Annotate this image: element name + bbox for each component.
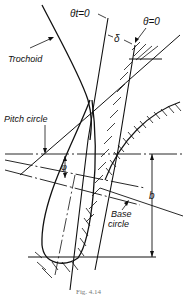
pressure-line-1 [5,160,145,188]
hatching-base [106,104,181,175]
phi-label: φ [61,162,67,172]
pitch-circle-label: Pitch circle [4,114,48,124]
theta-t-pointer [98,14,106,18]
phi-arrow-top-icon [63,156,67,161]
pitch-arrow-icon [43,148,47,154]
base-circle-arc [105,102,180,180]
base-circle-label-1: Base [111,209,132,219]
trochoid-pointer [30,38,52,48]
b-arrow-bottom-icon [150,251,154,257]
tooth-centerline [55,175,75,275]
figure-caption: Fig. 4.14 [76,288,102,296]
theta-t-label: θt=0 [70,8,90,19]
delta-pointer-left [108,35,113,37]
delta-pointer-right [124,40,132,44]
delta-label: δ [114,33,120,44]
trochoid-label: Trochoid [8,54,43,64]
theta-pointer [137,28,146,40]
b-arrow-top-icon [150,154,154,160]
hatching-lower [35,208,92,278]
base-circle-label-2: circle [108,219,129,229]
gear-tooth-diagram: θt=0 θ=0 δ Trochoid Pitch circle φ Base … [0,0,185,297]
phi-arrow-bottom-icon [63,173,67,178]
theta-label: θ=0 [143,16,160,27]
b-label: b [149,190,155,201]
